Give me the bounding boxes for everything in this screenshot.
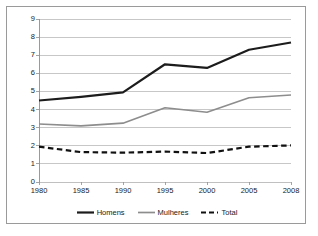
series-line-mulheres — [39, 95, 291, 126]
legend-swatch-icon — [201, 208, 218, 217]
chart-frame: 0123456789 1980198519901995200020052008 … — [6, 6, 306, 224]
x-tick-label: 2008 — [274, 186, 308, 196]
y-tick-label: 0 — [21, 178, 35, 186]
legend-entry[interactable]: Total — [201, 208, 237, 217]
x-tick-label: 2005 — [232, 186, 266, 196]
plot-area — [39, 19, 291, 182]
y-tick-label: 9 — [21, 15, 35, 23]
legend-label: Total — [221, 208, 237, 217]
x-tick-label: 1995 — [148, 186, 182, 196]
legend-entry[interactable]: Homens — [77, 208, 125, 217]
plot-svg — [39, 19, 291, 182]
y-tick-label: 7 — [21, 51, 35, 59]
y-tick-label: 6 — [21, 69, 35, 77]
y-axis: 0123456789 — [19, 19, 35, 182]
x-tick-label: 1985 — [64, 186, 98, 196]
chart-legend: HomensMulheresTotal — [7, 205, 307, 219]
y-tick-label: 1 — [21, 160, 35, 168]
y-tick-label: 5 — [21, 87, 35, 95]
x-axis: 1980198519901995200020052008 — [39, 186, 291, 198]
legend-swatch-icon — [138, 208, 155, 217]
x-tick-label: 2000 — [190, 186, 224, 196]
y-tick-label: 3 — [21, 124, 35, 132]
y-tick-label: 2 — [21, 142, 35, 150]
legend-label: Mulheres — [158, 208, 189, 217]
x-tick-label: 1990 — [106, 186, 140, 196]
y-tick-label: 8 — [21, 33, 35, 41]
legend-swatch-icon — [77, 208, 94, 217]
legend-label: Homens — [97, 208, 125, 217]
series-line-total — [39, 145, 291, 153]
legend-entry[interactable]: Mulheres — [138, 208, 189, 217]
x-tick-label: 1980 — [22, 186, 56, 196]
y-tick-label: 4 — [21, 106, 35, 114]
